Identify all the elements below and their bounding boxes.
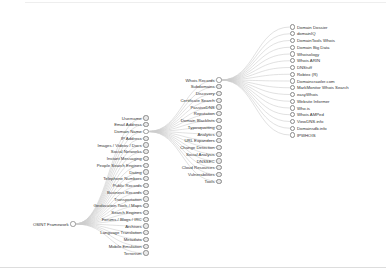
node-circle-icon[interactable] [290, 112, 295, 117]
node-circle-icon[interactable] [143, 203, 148, 208]
node-circle-icon[interactable] [143, 237, 148, 242]
node-circle-icon[interactable] [216, 158, 221, 163]
node-circle-icon[interactable] [143, 142, 148, 147]
node-circle-icon[interactable] [290, 72, 295, 77]
node-circle-icon[interactable] [143, 149, 148, 154]
node-circle-icon[interactable] [290, 92, 295, 97]
node-circle-icon[interactable] [143, 156, 148, 161]
node-circle-icon[interactable] [216, 145, 221, 150]
node-circle-icon[interactable] [290, 78, 295, 83]
node-circle-icon[interactable] [143, 223, 148, 228]
tree-node-terrorism[interactable]: Terrorism [124, 250, 149, 257]
node-circle-icon[interactable] [143, 163, 148, 168]
node-circle-icon[interactable] [290, 58, 295, 63]
node-circle-icon[interactable] [290, 85, 295, 90]
node-circle-icon[interactable] [143, 210, 148, 215]
node-circle-icon[interactable] [216, 104, 221, 109]
node-circle-icon[interactable] [290, 31, 295, 36]
node-circle-icon[interactable] [143, 169, 148, 174]
node-circle-icon[interactable] [216, 98, 221, 103]
node-circle-icon[interactable] [143, 230, 148, 235]
node-circle-icon[interactable] [143, 244, 148, 249]
node-label: Tools [205, 178, 215, 185]
node-circle-icon[interactable] [216, 152, 221, 157]
node-circle-icon[interactable] [290, 45, 295, 50]
node-circle-icon[interactable] [216, 165, 221, 170]
tree-leaf-ipwhois[interactable]: IPWHOIS [290, 132, 316, 139]
node-circle-icon[interactable] [290, 65, 295, 70]
node-label: Terrorism [124, 250, 142, 257]
tree-root-osint-framework[interactable]: OSINT Framework [33, 221, 76, 228]
node-circle-icon[interactable] [290, 132, 295, 137]
node-circle-icon[interactable] [143, 115, 148, 120]
node-circle-icon[interactable] [70, 221, 75, 226]
node-label: IPWHOIS [297, 132, 316, 139]
tree-node-tools[interactable]: Tools [205, 178, 222, 185]
node-circle-icon[interactable] [290, 119, 295, 124]
node-circle-icon[interactable] [216, 77, 221, 82]
node-circle-icon[interactable] [216, 118, 221, 123]
node-circle-icon[interactable] [143, 122, 148, 127]
node-circle-icon[interactable] [216, 111, 221, 116]
node-circle-icon[interactable] [143, 190, 148, 195]
node-circle-icon[interactable] [143, 196, 148, 201]
node-circle-icon[interactable] [290, 105, 295, 110]
node-circle-icon[interactable] [216, 84, 221, 89]
node-circle-icon[interactable] [290, 126, 295, 131]
node-circle-icon[interactable] [216, 172, 221, 177]
osint-tree: OSINT FrameworkUsernameEmail AddressDoma… [0, 0, 386, 279]
node-circle-icon[interactable] [290, 38, 295, 43]
node-circle-icon[interactable] [143, 136, 148, 141]
node-circle-icon[interactable] [216, 91, 221, 96]
node-circle-icon[interactable] [143, 176, 148, 181]
node-circle-icon[interactable] [143, 250, 148, 255]
node-circle-icon[interactable] [216, 125, 221, 130]
node-circle-icon[interactable] [290, 24, 295, 29]
node-circle-icon[interactable] [216, 131, 221, 136]
node-circle-icon[interactable] [216, 179, 221, 184]
node-circle-icon[interactable] [216, 138, 221, 143]
node-circle-icon[interactable] [290, 51, 295, 56]
node-circle-icon[interactable] [143, 129, 148, 134]
node-circle-icon[interactable] [290, 99, 295, 104]
node-label: OSINT Framework [33, 221, 69, 228]
node-circle-icon[interactable] [143, 183, 148, 188]
node-circle-icon[interactable] [143, 217, 148, 222]
